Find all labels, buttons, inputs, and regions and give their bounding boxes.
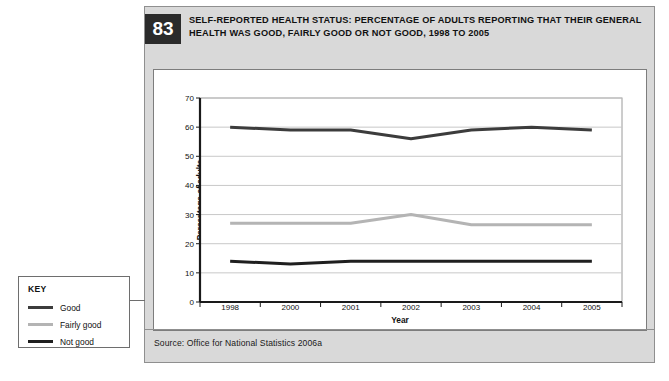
figure-title: SELF-REPORTED HEALTH STATUS: PERCENTAGE … <box>189 14 646 39</box>
key-item-fairly-good: Fairly good <box>28 319 101 330</box>
figure-panel: 83 SELF-REPORTED HEALTH STATUS: PERCENTA… <box>144 6 655 363</box>
key-item-label: Not good <box>60 337 94 347</box>
source-bar: Source: Office for National Statistics 2… <box>145 329 654 362</box>
chart-card: Percentage of adults Year 01020304050607… <box>153 69 647 331</box>
line-chart-canvas <box>154 70 648 332</box>
key-box: KEY GoodFairly goodNot good <box>18 276 130 348</box>
key-title: KEY <box>28 284 47 294</box>
key-swatch-icon <box>28 340 53 343</box>
key-connector-line <box>130 300 145 301</box>
plot-area: Percentage of adults Year 01020304050607… <box>154 70 646 330</box>
key-item-good: Good <box>28 302 81 313</box>
key-item-label: Good <box>60 303 81 313</box>
source-text: Source: Office for National Statistics 2… <box>154 338 322 348</box>
figure-header: 83 SELF-REPORTED HEALTH STATUS: PERCENTA… <box>145 14 654 59</box>
key-swatch-icon <box>28 306 53 309</box>
key-swatch-icon <box>28 323 53 326</box>
key-item-not-good: Not good <box>28 336 94 347</box>
key-item-label: Fairly good <box>60 320 101 330</box>
figure-number-badge: 83 <box>145 14 181 44</box>
